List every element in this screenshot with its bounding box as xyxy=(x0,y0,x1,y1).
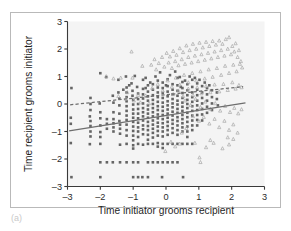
y-tick-label: –1 xyxy=(52,127,62,137)
y-tick-label: –2 xyxy=(52,154,62,164)
scatter-plot-svg: –3–2–10123–3–2–10123Time initiator groom… xyxy=(0,0,291,231)
chart-panel: –3–2–10123–3–2–10123Time initiator groom… xyxy=(0,0,291,231)
x-tick-label: –1 xyxy=(128,192,138,202)
x-tick-label: 1 xyxy=(196,192,201,202)
y-tick-label: 2 xyxy=(57,44,62,54)
figure-caption-label: (a) xyxy=(11,213,25,224)
y-tick-label: 0 xyxy=(57,99,62,109)
x-tick-label: –3 xyxy=(62,192,72,202)
figure-container: –3–2–10123–3–2–10123Time initiator groom… xyxy=(0,0,291,231)
y-axis-label: Time recipient grooms initiator xyxy=(23,35,34,172)
x-tick-label: –2 xyxy=(95,192,105,202)
y-tick-label: 3 xyxy=(57,17,62,27)
x-axis-label: Time initiator grooms recipient xyxy=(98,205,234,216)
x-tick-label: 3 xyxy=(262,192,267,202)
x-tick-label: 2 xyxy=(229,192,234,202)
y-tick-label: 1 xyxy=(57,72,62,82)
y-tick-label: –3 xyxy=(52,182,62,192)
x-tick-label: 0 xyxy=(163,192,168,202)
